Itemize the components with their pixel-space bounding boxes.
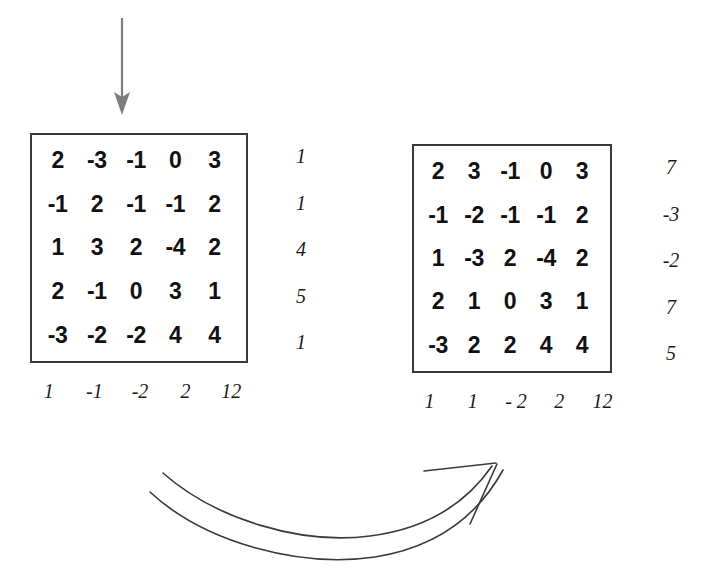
col-label: 12 <box>581 391 624 411</box>
matrix-cell: 3 <box>564 150 600 193</box>
col-label: 2 <box>163 381 209 401</box>
matrix-cell: 1 <box>564 280 600 323</box>
curved-arrow-upper-edge <box>163 466 492 538</box>
col-label: 1 <box>451 391 494 411</box>
col-label: - 2 <box>494 391 537 411</box>
matrix-cell: -1 <box>420 193 456 236</box>
row-label: 4 <box>296 238 306 260</box>
matrix-cell: 2 <box>195 183 234 227</box>
matrix-cell: 4 <box>195 313 234 357</box>
row-label: 1 <box>296 145 306 167</box>
matrix-cell: 2 <box>116 226 155 270</box>
col-label: 12 <box>208 381 254 401</box>
matrix-cell: -1 <box>528 193 564 236</box>
right-matrix-row-labels: 7 -3 -2 7 5 <box>648 156 694 364</box>
matrix-cell: 1 <box>420 237 456 280</box>
row-label: 1 <box>296 331 306 353</box>
curved-arrow-head-lower-barb <box>470 464 497 524</box>
matrix-cell: 1 <box>195 270 234 314</box>
matrix-cell: -1 <box>38 183 77 227</box>
matrix-cell: 2 <box>492 237 528 280</box>
matrix-cell: -3 <box>77 139 116 183</box>
row-label: -3 <box>663 203 680 225</box>
pointer-down-arrow-icon <box>114 18 130 115</box>
row-label: 7 <box>666 156 676 178</box>
left-matrix-grid: 2 -3 -1 0 3 -1 2 -1 -1 2 1 3 2 -4 2 2 -1… <box>32 135 246 361</box>
matrix-cell: 2 <box>564 237 600 280</box>
matrix-cell: 2 <box>38 139 77 183</box>
right-matrix-col-labels: 1 1 - 2 2 12 <box>408 391 624 411</box>
matrix-cell: 4 <box>564 324 600 367</box>
matrix-cell: 2 <box>420 280 456 323</box>
col-label: -1 <box>72 381 118 401</box>
right-matrix-grid: 2 3 -1 0 3 -1 -2 -1 -1 2 1 -3 2 -4 2 2 1… <box>414 146 610 371</box>
matrix-cell: -3 <box>420 324 456 367</box>
matrix-cell: 0 <box>528 150 564 193</box>
matrix-cell: -1 <box>77 270 116 314</box>
matrix-cell: -1 <box>492 150 528 193</box>
row-label: 5 <box>296 285 306 307</box>
left-matrix-box: 2 -3 -1 0 3 -1 2 -1 -1 2 1 3 2 -4 2 2 -1… <box>30 133 248 363</box>
row-label: 7 <box>666 296 676 318</box>
matrix-cell: 2 <box>77 183 116 227</box>
right-matrix-box: 2 3 -1 0 3 -1 -2 -1 -1 2 1 -3 2 -4 2 2 1… <box>412 144 612 373</box>
matrix-cell: -4 <box>528 237 564 280</box>
matrix-cell: 4 <box>528 324 564 367</box>
matrix-cell: 3 <box>528 280 564 323</box>
matrix-cell: 3 <box>156 270 195 314</box>
matrix-cell: -2 <box>116 313 155 357</box>
matrix-cell: 2 <box>564 193 600 236</box>
matrix-cell: 2 <box>420 150 456 193</box>
matrix-cell: -3 <box>38 313 77 357</box>
matrix-cell: 2 <box>492 324 528 367</box>
matrix-cell: 0 <box>156 139 195 183</box>
col-label: -2 <box>117 381 163 401</box>
matrix-cell: 1 <box>38 226 77 270</box>
matrix-cell: 1 <box>456 280 492 323</box>
matrix-cell: -3 <box>456 237 492 280</box>
pointer-arrow-head <box>114 92 130 115</box>
matrix-cell: 0 <box>492 280 528 323</box>
matrix-cell: -1 <box>492 193 528 236</box>
col-label: 1 <box>26 381 72 401</box>
matrix-cell: -2 <box>456 193 492 236</box>
matrix-cell: -1 <box>116 183 155 227</box>
figure-canvas: 2 -3 -1 0 3 -1 2 -1 -1 2 1 3 2 -4 2 2 -1… <box>0 0 717 578</box>
matrix-cell: -4 <box>156 226 195 270</box>
transform-curved-arrow-icon <box>150 463 503 560</box>
matrix-cell: 2 <box>195 226 234 270</box>
curved-arrow-head-upper-barb <box>424 463 496 471</box>
matrix-cell: 3 <box>456 150 492 193</box>
row-label: 1 <box>296 192 306 214</box>
matrix-cell: 2 <box>456 324 492 367</box>
matrix-cell: -2 <box>77 313 116 357</box>
left-matrix-col-labels: 1 -1 -2 2 12 <box>26 381 254 401</box>
matrix-cell: 3 <box>195 139 234 183</box>
row-label: -2 <box>663 249 680 271</box>
matrix-cell: -1 <box>156 183 195 227</box>
curved-arrow-lower-edge <box>150 470 503 560</box>
matrix-cell: 0 <box>116 270 155 314</box>
matrix-cell: -1 <box>116 139 155 183</box>
col-label: 1 <box>408 391 451 411</box>
row-label: 5 <box>666 342 676 364</box>
matrix-cell: 3 <box>77 226 116 270</box>
matrix-cell: 4 <box>156 313 195 357</box>
col-label: 2 <box>538 391 581 411</box>
left-matrix-row-labels: 1 1 4 5 1 <box>278 145 324 353</box>
matrix-cell: 2 <box>38 270 77 314</box>
